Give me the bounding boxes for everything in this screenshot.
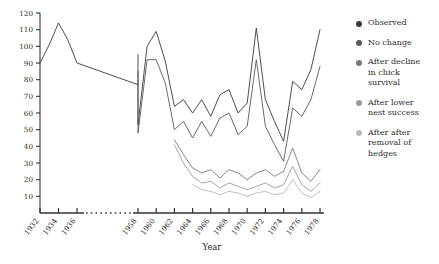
legend-item[interactable]: After after removal of hedges — [356, 128, 439, 160]
series-line — [174, 140, 320, 182]
data-series-group — [40, 23, 320, 198]
x-tick-label: 1968 — [211, 216, 230, 236]
x-axis: 1932193419361958196019621964196619681970… — [22, 208, 324, 237]
x-tick-label: 1936 — [59, 216, 78, 236]
legend-dot-icon — [356, 21, 362, 27]
x-tick-label: 1966 — [193, 216, 212, 236]
legend-dot-icon — [356, 60, 362, 66]
legend-item-label: After lower nest success — [368, 98, 419, 119]
x-tick-label: 1932 — [22, 217, 40, 237]
legend-item[interactable]: Observed — [356, 18, 439, 29]
x-tick-label: 1958 — [120, 216, 139, 236]
legend-dot-icon — [356, 40, 362, 46]
y-tick-label: 30 — [24, 159, 34, 168]
x-tick-label: 1978 — [302, 216, 321, 236]
x-tick-label: 1972 — [248, 217, 266, 237]
legend-dot-icon — [356, 130, 362, 136]
y-tick-label: 80 — [24, 75, 34, 84]
legend-item-label: After after removal of hedges — [368, 128, 411, 160]
legend-item-label: No change — [368, 38, 412, 49]
chart-figure: 102030405060708090100110120 193219341936… — [0, 0, 439, 264]
x-tick-label: 1962 — [157, 217, 175, 237]
y-tick-label: 50 — [24, 125, 34, 134]
y-tick-label: 10 — [24, 192, 34, 201]
x-tick-label: 1934 — [41, 216, 60, 236]
x-tick-label: 1960 — [138, 216, 157, 236]
y-tick-label: 20 — [24, 175, 34, 184]
legend-item[interactable]: After lower nest success — [356, 98, 439, 119]
y-tick-label: 110 — [19, 25, 33, 34]
series-line — [174, 145, 320, 192]
y-tick-label: 70 — [24, 92, 34, 101]
legend-item[interactable]: After decline in chick survival — [356, 57, 439, 89]
y-tick-label: 40 — [24, 142, 34, 151]
series-line — [40, 23, 138, 85]
legend-dot-icon — [356, 100, 362, 106]
x-tick-label: 1964 — [175, 216, 194, 236]
y-tick-label: 100 — [19, 42, 33, 51]
x-tick-label: 1976 — [284, 216, 303, 236]
x-axis-title: Year — [202, 242, 222, 252]
y-axis: 102030405060708090100110120 — [19, 9, 40, 213]
y-tick-label: 120 — [19, 9, 33, 18]
x-tick-label: 1974 — [266, 216, 285, 236]
chart-legend: ObservedNo changeAfter decline in chick … — [356, 18, 439, 168]
legend-item[interactable]: No change — [356, 38, 439, 49]
legend-item-label: Observed — [368, 18, 407, 29]
y-tick-label: 90 — [24, 59, 34, 68]
y-tick-label: 60 — [24, 109, 34, 118]
x-tick-label: 1970 — [229, 216, 248, 236]
legend-item-label: After decline in chick survival — [368, 57, 420, 89]
series-line — [138, 60, 320, 162]
